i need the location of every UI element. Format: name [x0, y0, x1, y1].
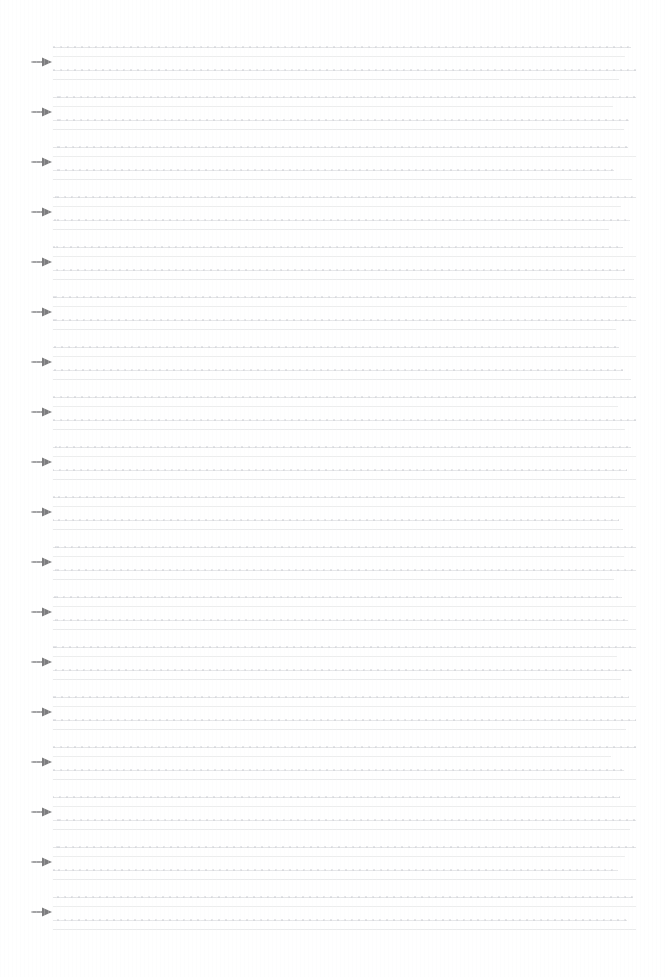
text-line — [53, 279, 634, 280]
right-arrow-marker — [31, 55, 53, 69]
right-arrow-marker — [31, 255, 53, 269]
faded-glyph-speckle — [53, 596, 622, 598]
faded-glyph-speckle — [53, 646, 636, 648]
text-line — [53, 456, 636, 457]
faded-glyph-speckle — [53, 846, 636, 848]
text-line — [53, 606, 636, 607]
paragraph-block — [0, 844, 668, 894]
right-arrow-marker — [31, 655, 53, 669]
faded-glyph-speckle — [53, 96, 636, 98]
text-line — [53, 879, 636, 880]
faded-glyph-speckle — [53, 219, 630, 221]
faded-text-lines — [53, 394, 636, 444]
right-arrow-marker — [31, 455, 53, 469]
paragraph-block — [0, 294, 668, 344]
faded-glyph-speckle — [53, 919, 627, 921]
text-line — [53, 429, 625, 430]
faded-text-lines — [53, 894, 636, 944]
right-arrow-marker — [31, 805, 53, 819]
faded-glyph-speckle — [53, 669, 632, 671]
right-arrow-marker — [31, 705, 53, 719]
faded-text-lines — [53, 694, 636, 744]
faded-text-lines — [53, 344, 636, 394]
text-line — [53, 906, 636, 907]
text-line — [53, 479, 636, 480]
text-line — [53, 929, 636, 930]
text-line — [53, 779, 636, 780]
faded-glyph-speckle — [53, 296, 636, 298]
faded-text-lines — [53, 94, 636, 144]
text-line — [53, 179, 632, 180]
faded-text-lines — [53, 594, 636, 644]
faded-glyph-speckle — [53, 619, 628, 621]
paragraph-block — [0, 794, 668, 844]
text-line — [53, 506, 636, 507]
paragraph-block — [0, 244, 668, 294]
right-arrow-marker — [31, 855, 53, 869]
faded-text-lines — [53, 194, 636, 244]
document-page — [0, 0, 668, 977]
faded-glyph-speckle — [53, 319, 636, 321]
text-line — [53, 556, 624, 557]
paragraph-block — [0, 594, 668, 644]
paragraph-block — [0, 144, 668, 194]
text-line — [53, 206, 621, 207]
paragraph-block — [0, 644, 668, 694]
faded-text-lines — [53, 544, 636, 594]
paragraph-block — [0, 894, 668, 944]
faded-glyph-speckle — [53, 419, 636, 421]
faded-glyph-speckle — [53, 896, 633, 898]
faded-text-lines — [53, 644, 636, 694]
text-line — [53, 306, 627, 307]
faded-glyph-speckle — [53, 719, 636, 721]
faded-glyph-speckle — [53, 869, 618, 871]
faded-text-lines — [53, 494, 636, 544]
text-line — [53, 806, 636, 807]
paragraph-block — [0, 694, 668, 744]
paragraph-block — [0, 744, 668, 794]
faded-text-lines — [53, 244, 636, 294]
paragraph-block — [0, 194, 668, 244]
faded-glyph-speckle — [53, 369, 623, 371]
text-line — [53, 156, 636, 157]
faded-glyph-speckle — [53, 169, 614, 171]
text-line — [53, 729, 626, 730]
text-line — [53, 106, 613, 107]
text-line — [53, 629, 636, 630]
text-line — [53, 406, 618, 407]
text-line — [53, 856, 625, 857]
text-line — [53, 579, 614, 580]
faded-glyph-speckle — [53, 496, 625, 498]
faded-glyph-speckle — [53, 469, 627, 471]
faded-glyph-speckle — [53, 146, 628, 148]
text-line — [53, 79, 619, 80]
faded-glyph-speckle — [53, 546, 636, 548]
faded-glyph-speckle — [53, 796, 620, 798]
text-line — [53, 829, 630, 830]
faded-glyph-speckle — [53, 446, 631, 448]
faded-text-lines — [53, 144, 636, 194]
faded-glyph-speckle — [53, 519, 619, 521]
paragraph-block — [0, 94, 668, 144]
faded-glyph-speckle — [53, 746, 636, 748]
paragraph-block — [0, 494, 668, 544]
right-arrow-marker — [31, 505, 53, 519]
faded-glyph-speckle — [53, 69, 636, 71]
text-line — [53, 329, 616, 330]
paragraph-block — [0, 394, 668, 444]
faded-glyph-speckle — [53, 196, 636, 198]
faded-text-lines — [53, 444, 636, 494]
faded-glyph-speckle — [53, 396, 636, 398]
paragraph-block — [0, 544, 668, 594]
paragraph-block — [0, 444, 668, 494]
right-arrow-marker — [31, 305, 53, 319]
text-line — [53, 229, 609, 230]
text-line — [53, 679, 621, 680]
faded-glyph-speckle — [53, 569, 636, 571]
paragraph-block — [0, 344, 668, 394]
faded-glyph-speckle — [53, 269, 625, 271]
text-line — [53, 379, 631, 380]
text-line — [53, 356, 636, 357]
faded-text-lines — [53, 844, 636, 894]
faded-text-lines — [53, 744, 636, 794]
